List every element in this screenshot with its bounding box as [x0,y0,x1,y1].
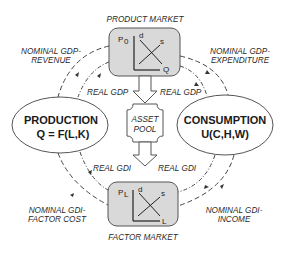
factor-supply-label: s [161,189,165,198]
label-nominal-gdi-factor-cost-2: FACTOR COST [28,215,87,224]
asset-pool-line2: POOL [134,125,157,134]
factor-labor-axis-label: L [162,217,167,226]
label-nominal-gdi-income-2: INCOME [218,215,251,224]
factor-market-title: FACTOR MARKET [108,233,178,242]
consumption-ellipse: CONSUMPTION U(C,H,W) [177,95,273,155]
product-supply-label: s [160,37,164,46]
factor-price-axis-sub: L [124,190,129,199]
label-real-gdi-left: REAL GDI [93,164,132,173]
label-nominal-gdp-expenditure-1: NOMINAL GDP- [210,47,270,56]
product-price-axis-sub: 0 [124,37,129,46]
product-market-title: PRODUCT MARKET [107,15,185,24]
arrow-down-upper [133,76,157,103]
product-price-axis-label: P [118,35,123,44]
arrow-down-lower [133,142,157,166]
consumption-formula: U(C,H,W) [201,128,249,140]
label-real-gdi-right: REAL GDI [158,164,197,173]
label-nominal-gdp-revenue-2: REVENUE [31,56,71,65]
product-market-box: P 0 d s Q [109,28,180,76]
factor-market-box: P L d s L [108,182,178,226]
label-nominal-gdp-expenditure-2: EXPENDITURE [211,56,270,65]
factor-demand-label: d [138,185,142,194]
label-nominal-gdp-revenue-1: NOMINAL GDP- [21,47,81,56]
label-nominal-gdi-factor-cost-1: NOMINAL GDI- [29,206,86,215]
production-formula: Q = F(L,K) [37,128,90,140]
label-real-gdp-left: REAL GDP [87,88,129,97]
production-title: PRODUCTION [24,114,98,126]
production-ellipse: PRODUCTION Q = F(L,K) [12,97,108,153]
asset-pool-line1: ASSET [131,115,160,124]
asset-pool-shape: ASSET POOL [127,104,163,142]
label-nominal-gdi-income-1: NOMINAL GDI- [206,206,263,215]
product-quantity-axis-label: Q [163,65,169,74]
factor-price-axis-label: P [118,188,123,197]
consumption-title: CONSUMPTION [184,114,267,126]
circular-flow-diagram: PRODUCT MARKET P 0 d s Q ASSET POOL P L … [0,0,287,253]
product-demand-label: d [139,31,143,40]
label-real-gdp-right: REAL GDP [160,88,202,97]
